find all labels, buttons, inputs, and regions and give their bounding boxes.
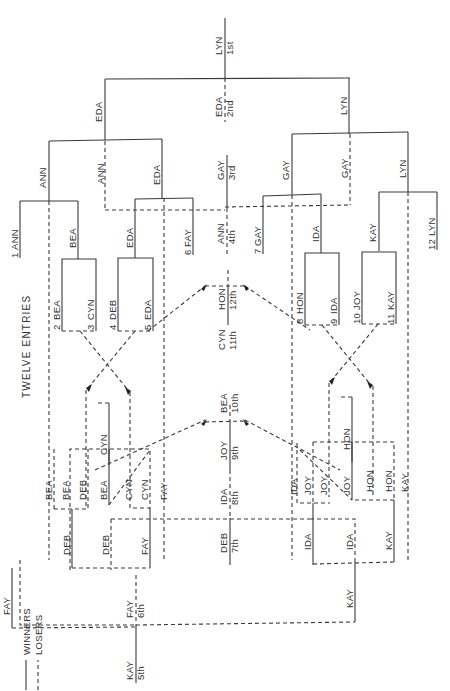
svg-text:CYN: CYN bbox=[85, 299, 96, 320]
place-2-name: EDA bbox=[213, 96, 224, 117]
svg-text:7: 7 bbox=[252, 248, 263, 254]
place-4-label: 4th bbox=[226, 230, 237, 244]
lb-left-8: DEB bbox=[61, 535, 72, 555]
lb-right-4: HON bbox=[364, 470, 375, 492]
wb-semi-eda: EDA bbox=[151, 164, 162, 185]
wb-final-left: EDA bbox=[93, 101, 104, 122]
entry-1: 1ANN bbox=[9, 229, 20, 258]
svg-text:BEA: BEA bbox=[51, 300, 62, 320]
svg-text:11: 11 bbox=[385, 314, 396, 324]
match-joy-kay bbox=[362, 252, 396, 324]
place-12-name: HON bbox=[216, 288, 227, 310]
cyn-loser-arrow bbox=[80, 331, 128, 390]
place-9-name: JOY bbox=[218, 440, 229, 460]
place-2-label: 2nd bbox=[224, 100, 235, 117]
diagram-title: TWELVE ENTRIES bbox=[21, 295, 32, 398]
entry-2: 2BEA bbox=[51, 300, 62, 330]
lb-right-hon-drop: HON bbox=[341, 428, 352, 450]
lb-right-3: JOY bbox=[341, 475, 352, 495]
wb-semi-ann: ANN bbox=[37, 167, 48, 188]
place-7-label: 7th bbox=[229, 539, 240, 553]
place-9-label: 9th bbox=[229, 446, 240, 460]
edge-to-10th bbox=[95, 420, 205, 470]
lb-right-9: IDA bbox=[344, 533, 355, 550]
arrowhead-icon bbox=[329, 377, 335, 385]
place-3-name: GAY bbox=[215, 159, 226, 180]
lb-left-2: DEB bbox=[77, 480, 88, 500]
wb-semi-ann-loser: ANN bbox=[95, 163, 106, 184]
tournament-bracket-diagram: LYN 1st EDA 2nd GAY 3rd ANN 4th KAY 5th … bbox=[0, 0, 450, 691]
entry-6: 6FAY bbox=[182, 228, 193, 255]
lb-right-6: KAY bbox=[399, 472, 410, 492]
place-12-label: 12th bbox=[227, 290, 238, 310]
legend-losers-label: LOSERS bbox=[33, 615, 44, 655]
svg-text:2: 2 bbox=[51, 324, 62, 330]
deb-loser-arrow bbox=[88, 331, 135, 388]
wb-final-right: LYN bbox=[338, 96, 349, 115]
wb-r1-eda: EDA bbox=[124, 227, 135, 248]
lb-left-10: FAY bbox=[139, 536, 150, 555]
arrowhead-icon bbox=[367, 381, 373, 389]
svg-text:12: 12 bbox=[426, 239, 437, 250]
hon-loser-arrow bbox=[322, 325, 370, 384]
svg-text:8: 8 bbox=[294, 318, 305, 324]
lb-right-8: IDA bbox=[302, 533, 313, 550]
entry-3: 3CYN bbox=[85, 299, 96, 330]
labels: LYN 1st EDA 2nd GAY 3rd ANN 4th KAY 5th … bbox=[1, 36, 437, 690]
lb-right-5: HON bbox=[383, 470, 394, 492]
lb-right-0: IDA bbox=[288, 478, 299, 495]
joy-loser-arrow bbox=[331, 324, 378, 381]
svg-text:9: 9 bbox=[328, 318, 339, 324]
edge-to-11th bbox=[148, 286, 205, 331]
entry-7: 7GAY bbox=[252, 225, 263, 254]
wb-semi-gay: GAY bbox=[280, 159, 291, 180]
svg-text:1: 1 bbox=[9, 252, 20, 258]
place-6-label: 6th bbox=[135, 604, 146, 618]
place-8-label: 8th bbox=[229, 491, 240, 505]
lb-left-11: FAY bbox=[1, 596, 12, 615]
arrowhead-icon bbox=[201, 284, 207, 291]
svg-text:EDA: EDA bbox=[142, 299, 153, 320]
place-11-name: CYN bbox=[216, 329, 227, 350]
place-1-name: LYN bbox=[213, 36, 224, 55]
place-1-label: 1st bbox=[224, 41, 235, 55]
svg-text:ANN: ANN bbox=[9, 229, 20, 250]
svg-text:IDA: IDA bbox=[328, 297, 339, 314]
wb-r1-ida: IDA bbox=[310, 225, 321, 242]
final-connector bbox=[105, 78, 350, 79]
wb-r1-kay: KAY bbox=[367, 222, 378, 242]
place-11-label: 11th bbox=[227, 331, 238, 350]
entry-8: 8HON bbox=[294, 292, 305, 324]
svg-text:GAY: GAY bbox=[252, 225, 263, 246]
svg-text:JOY: JOY bbox=[351, 290, 362, 310]
svg-text:10: 10 bbox=[351, 313, 362, 324]
lb-left-9: DEB bbox=[100, 535, 111, 555]
place-4-name: ANN bbox=[215, 223, 226, 244]
entry-12: 12LYN bbox=[426, 217, 437, 250]
svg-text:3: 3 bbox=[85, 324, 96, 330]
svg-text:FAY: FAY bbox=[182, 228, 193, 247]
svg-text:DEB: DEB bbox=[107, 300, 118, 320]
place-5-name: KAY bbox=[124, 660, 135, 680]
lb-left-5: CYN bbox=[139, 479, 150, 500]
lb-left-4: CYN bbox=[123, 479, 134, 500]
svg-text:KAY: KAY bbox=[385, 290, 396, 310]
place-10-label: 10th bbox=[229, 393, 240, 413]
lb-left-0: BEA bbox=[43, 480, 54, 500]
lb-left-1: BEA bbox=[60, 480, 71, 500]
lb-left-6: FAY bbox=[158, 481, 169, 500]
place-7-name: DEB bbox=[218, 533, 229, 553]
lb-right-11: KAY bbox=[344, 588, 355, 608]
place-8-name: IDA bbox=[218, 488, 229, 505]
gay-loser-connector bbox=[225, 205, 350, 207]
place-10-name: BEA bbox=[218, 393, 229, 413]
entry-10: 10JOY bbox=[351, 290, 362, 324]
wb-semi-lyn: LYN bbox=[397, 159, 408, 178]
arrowhead-icon bbox=[86, 384, 92, 392]
right-semi-connector bbox=[292, 132, 408, 134]
lb-right-1: JOY bbox=[302, 475, 313, 495]
place-6-name: FAY bbox=[124, 599, 135, 618]
svg-text:HON: HON bbox=[294, 292, 305, 314]
place-5-label: 5th bbox=[135, 666, 146, 680]
lb-left-3: BEA bbox=[98, 480, 109, 500]
